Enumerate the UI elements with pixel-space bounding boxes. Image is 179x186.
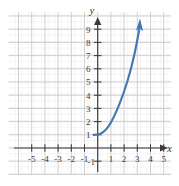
x-tick-label: 3	[135, 154, 140, 164]
y-tick-label: 9	[86, 25, 91, 35]
x-tick-label: 2	[122, 154, 127, 164]
y-tick-label: 5	[86, 77, 91, 87]
y-tick-label: 2	[86, 117, 91, 127]
y-axis-arrow-icon	[94, 17, 101, 25]
x-tick-label: -2	[68, 154, 76, 164]
graph-figure: -5 -4 -3 -2 -1 1 2 3 4 5 9 8 7 6 5 4 3 2…	[0, 0, 179, 186]
y-tick-label: 7	[86, 51, 91, 61]
y-tick-label: 1	[86, 130, 91, 140]
x-tick-label: -3	[54, 154, 62, 164]
y-tick-label: 3	[86, 104, 91, 114]
x-tick-label: 1	[109, 154, 114, 164]
x-axis-name-label: x	[166, 143, 172, 154]
x-tick-label: 5	[161, 154, 166, 164]
x-tick-label: -4	[41, 154, 49, 164]
y-tick-label: 8	[86, 38, 91, 48]
x-tick-label: -5	[28, 154, 36, 164]
y-tick-label-negative-one: -1	[88, 157, 96, 167]
y-tick-label: 4	[86, 91, 91, 101]
x-tick-label: 4	[148, 154, 153, 164]
coordinate-plane-svg: -5 -4 -3 -2 -1 1 2 3 4 5 9 8 7 6 5 4 3 2…	[0, 0, 179, 186]
y-tick-label: 6	[86, 64, 91, 74]
y-axis-name-label: y	[89, 5, 95, 16]
x-axis	[14, 144, 168, 152]
